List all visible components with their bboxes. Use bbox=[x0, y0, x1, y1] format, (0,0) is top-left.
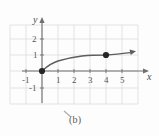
x-tick-label-2: 2 bbox=[72, 76, 77, 85]
panel-caption: (b) bbox=[69, 114, 81, 125]
y-tick-label-2: 2 bbox=[32, 35, 37, 44]
figure-panel-b: -1 1 2 3 4 5 2 1 -1 y x (b) bbox=[0, 0, 159, 136]
x-tick-label-1: 1 bbox=[56, 76, 61, 85]
x-tick-label-5: 5 bbox=[120, 76, 125, 85]
y-axis-label: y bbox=[33, 15, 37, 25]
y-axis bbox=[39, 17, 44, 103]
point-origin bbox=[39, 68, 45, 74]
x-tick-label-4: 4 bbox=[104, 76, 109, 85]
x-axis-label: x bbox=[147, 72, 151, 82]
x-tick-label-3: 3 bbox=[88, 76, 93, 85]
y-tick-label-1: 1 bbox=[33, 51, 38, 60]
point-4-1 bbox=[103, 52, 109, 58]
y-tick-label-neg1: -1 bbox=[29, 84, 37, 93]
